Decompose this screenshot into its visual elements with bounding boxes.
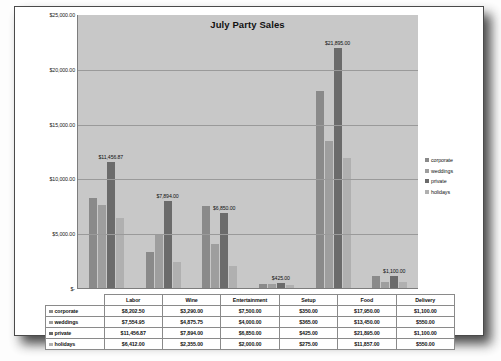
legend-label: holidays <box>431 189 450 195</box>
bar <box>286 285 294 288</box>
table-row: weddings$7,554.95$4,875.75$4,000.00$365.… <box>46 317 455 328</box>
table-row: holidays$6,412.00$2,355.00$2,000.00$275.… <box>46 339 455 350</box>
table-cell: $21,895.00 <box>338 328 396 339</box>
table-cell: $1,100.00 <box>396 328 454 339</box>
legend-label: corporate <box>431 157 453 163</box>
bar <box>155 235 163 288</box>
table-cell: $2,000.00 <box>221 339 279 350</box>
table-row: corporate$8,202.50$3,290.00$7,500.00$350… <box>46 306 455 317</box>
table-cell: $6,412.00 <box>104 339 162 350</box>
legend-label: weddings <box>431 168 453 174</box>
bar-data-label: $11,456.87 <box>99 154 124 160</box>
table-column-header: Entertainment <box>221 295 279 306</box>
y-axis-tick-label: $5,000.00 <box>19 231 75 237</box>
bar: $7,894.00 <box>164 201 172 288</box>
table-header-row: LaborWineEntertainmentSetupFoodDelivery <box>46 295 455 306</box>
bar-cluster: $425.00 <box>248 15 305 288</box>
bar-data-label: $7,894.00 <box>156 193 178 199</box>
bar <box>98 205 106 288</box>
table-cell: $7,554.95 <box>104 317 162 328</box>
gridline <box>78 125 418 126</box>
bar <box>229 266 237 288</box>
legend-label: private <box>431 178 447 184</box>
series-swatch-icon <box>49 321 53 325</box>
bar <box>202 206 210 288</box>
table-corner-cell <box>46 295 105 306</box>
bar <box>268 284 276 288</box>
bar <box>325 141 333 288</box>
table-head: LaborWineEntertainmentSetupFoodDelivery <box>46 295 455 306</box>
bar <box>381 282 389 288</box>
table-cell: $11,857.00 <box>338 339 396 350</box>
legend-item[interactable]: private <box>425 178 481 184</box>
table-cell: $7,500.00 <box>221 306 279 317</box>
series-swatch-icon <box>49 310 53 314</box>
bar: $425.00 <box>277 283 285 288</box>
chart-container: $25,000.00$20,000.00$15,000.00$10,000.00… <box>15 7 485 337</box>
y-axis-tick-label: $15,000.00 <box>19 122 75 128</box>
bar <box>211 244 219 288</box>
bar: $21,895.00 <box>334 48 342 288</box>
bar-clusters: $11,456.87$7,894.00$6,850.00$425.00$21,8… <box>78 15 418 288</box>
bar-data-label: $6,850.00 <box>213 205 235 211</box>
table-column-header: Labor <box>104 295 162 306</box>
table-row-header: weddings <box>46 317 105 328</box>
table-cell: $8,202.50 <box>104 306 162 317</box>
bar: $11,456.87 <box>107 162 115 288</box>
bar-cluster: $1,100.00 <box>361 15 418 288</box>
paper-sheet: $25,000.00$20,000.00$15,000.00$10,000.00… <box>14 6 484 336</box>
bar <box>259 284 267 288</box>
page-background: $25,000.00$20,000.00$15,000.00$10,000.00… <box>0 0 501 361</box>
table-cell: $7,894.00 <box>162 328 220 339</box>
table-column-header: Wine <box>162 295 220 306</box>
table-cell: $4,000.00 <box>221 317 279 328</box>
y-axis: $25,000.00$20,000.00$15,000.00$10,000.00… <box>19 13 77 289</box>
legend-item[interactable]: weddings <box>425 168 481 174</box>
legend-swatch-icon <box>425 179 429 183</box>
table-cell: $13,450.00 <box>338 317 396 328</box>
table-cell: $365.00 <box>279 317 337 328</box>
data-table: LaborWineEntertainmentSetupFoodDelivery … <box>45 294 455 350</box>
table-row-header: holidays <box>46 339 105 350</box>
legend-item[interactable]: corporate <box>425 157 481 163</box>
table-cell: $550.00 <box>396 317 454 328</box>
bar: $6,850.00 <box>220 213 228 288</box>
bar-cluster: $7,894.00 <box>135 15 192 288</box>
bar <box>372 276 380 288</box>
table-cell: $4,875.75 <box>162 317 220 328</box>
chart-legend: corporateweddingsprivateholidays <box>425 157 481 199</box>
bar: $1,100.00 <box>390 276 398 288</box>
bar-cluster: $6,850.00 <box>191 15 248 288</box>
table-cell: $550.00 <box>396 339 454 350</box>
series-swatch-icon <box>49 343 53 347</box>
table-row-header: corporate <box>46 306 105 317</box>
legend-swatch-icon <box>425 169 429 173</box>
table-cell: $6,850.00 <box>221 328 279 339</box>
table-row: private$11,456.87$7,894.00$6,850.00$425.… <box>46 328 455 339</box>
bar-cluster: $21,895.00 <box>305 15 362 288</box>
table-column-header: Food <box>338 295 396 306</box>
table-column-header: Setup <box>279 295 337 306</box>
bar <box>399 282 407 288</box>
bar-data-label: $425.00 <box>272 275 290 281</box>
y-axis-tick-label: $20,000.00 <box>19 67 75 73</box>
table-cell: $425.00 <box>279 328 337 339</box>
table-cell: $11,456.87 <box>104 328 162 339</box>
bar-data-label: $21,895.00 <box>325 40 350 46</box>
bar-cluster: $11,456.87 <box>78 15 135 288</box>
table-cell: $17,950.00 <box>338 306 396 317</box>
table-cell: $350.00 <box>279 306 337 317</box>
plot-area: $11,456.87$7,894.00$6,850.00$425.00$21,8… <box>77 15 418 289</box>
gridline <box>78 234 418 235</box>
legend-item[interactable]: holidays <box>425 189 481 195</box>
series-swatch-icon <box>49 332 53 336</box>
bar <box>146 252 154 288</box>
bar <box>89 198 97 288</box>
y-axis-tick-label: $25,000.00 <box>19 12 75 18</box>
legend-swatch-icon <box>425 158 429 162</box>
bar <box>316 91 324 288</box>
table-body: corporate$8,202.50$3,290.00$7,500.00$350… <box>46 306 455 350</box>
table-column-header: Delivery <box>396 295 454 306</box>
bar <box>116 218 124 288</box>
bar <box>173 262 181 288</box>
